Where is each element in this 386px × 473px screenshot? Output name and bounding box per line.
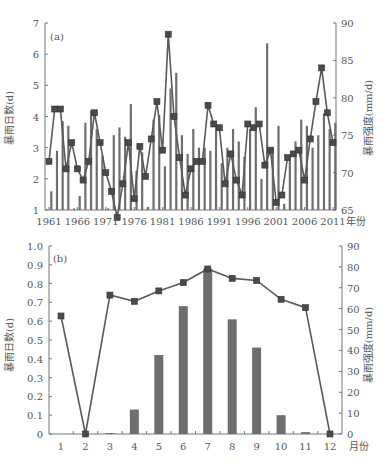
- bar: [238, 141, 240, 210]
- chart-panel-b: 00.10.20.30.40.50.60.70.80.91.0010203040…: [3, 241, 374, 452]
- line-marker: [131, 298, 137, 304]
- y-tick-label-right: 10: [347, 408, 360, 419]
- y-tick-label-left: 0.9: [27, 260, 43, 271]
- y-tick-label-right: 80: [341, 93, 354, 104]
- x-tick-label: 1: [58, 441, 64, 452]
- bar: [203, 269, 212, 434]
- bar: [84, 123, 86, 210]
- x-tick-label: 1966: [65, 216, 90, 227]
- bar: [198, 148, 200, 210]
- line-marker: [296, 147, 302, 153]
- bar: [252, 348, 261, 434]
- bar: [79, 196, 81, 210]
- x-tick-label: 1986: [178, 216, 203, 227]
- y-tick-label-right: 90: [347, 241, 360, 252]
- line-marker: [205, 102, 211, 108]
- line-marker: [108, 188, 114, 194]
- line-marker: [229, 275, 235, 281]
- y-tick-label-right: 80: [347, 262, 360, 273]
- line-marker: [57, 106, 63, 112]
- line-marker: [131, 196, 137, 202]
- line-marker: [194, 158, 200, 164]
- bar: [323, 113, 325, 210]
- x-tick-label: 1981: [150, 216, 175, 227]
- line-marker: [80, 177, 86, 183]
- y-tick-label-left: 0.2: [27, 391, 43, 402]
- line-marker: [188, 166, 194, 172]
- x-tick-label: 11: [299, 441, 312, 452]
- line-marker: [69, 140, 75, 146]
- bar: [260, 179, 262, 210]
- bar: [179, 306, 188, 434]
- line-marker: [58, 313, 64, 319]
- bar: [266, 43, 268, 210]
- bar: [228, 319, 237, 434]
- line-marker: [319, 65, 325, 71]
- line-marker: [290, 151, 296, 157]
- chart-figure: 1234567657075808590196119661971197619811…: [0, 0, 386, 473]
- y-tick-label-right: 70: [341, 168, 354, 179]
- line-marker: [256, 121, 262, 127]
- line-marker: [302, 177, 308, 183]
- y-tick-label-left: 0.3: [27, 373, 43, 384]
- bar: [204, 148, 206, 210]
- line-marker: [327, 431, 333, 437]
- line-marker: [233, 177, 239, 183]
- line-marker: [91, 110, 97, 116]
- y-tick-label-left: 1: [33, 205, 39, 216]
- line-marker: [245, 121, 251, 127]
- line-marker: [254, 277, 260, 283]
- y-tick-label-left: 4: [33, 112, 39, 123]
- line-marker: [205, 266, 211, 272]
- intensity-line: [61, 269, 330, 434]
- line-marker: [180, 280, 186, 286]
- x-tick-label: 2001: [263, 216, 288, 227]
- bar: [147, 207, 149, 210]
- line-marker: [86, 158, 92, 164]
- y-tick-label-right: 20: [347, 387, 360, 398]
- x-tick-label: 2011: [320, 216, 345, 227]
- line-marker: [211, 121, 217, 127]
- x-tick-label: 12: [324, 441, 337, 452]
- line-marker: [307, 136, 313, 142]
- line-marker: [279, 192, 285, 198]
- x-tick-label: 1971: [93, 216, 118, 227]
- line-marker: [216, 125, 222, 131]
- line-marker: [182, 192, 188, 198]
- line-marker: [63, 166, 69, 172]
- y-tick-label-left: 0.4: [27, 354, 43, 365]
- y-tick-label-left: 6: [33, 49, 39, 60]
- line-marker: [239, 192, 245, 198]
- x-tick-label: 6: [180, 441, 186, 452]
- line-marker: [74, 166, 80, 172]
- y-axis-title-right: 暴雨强度(mm/d): [362, 80, 374, 157]
- line-marker: [278, 296, 284, 302]
- y-tick-label-left: 2: [33, 174, 39, 185]
- bar: [169, 88, 171, 210]
- bar: [283, 204, 285, 210]
- y-tick-label-right: 30: [347, 366, 360, 377]
- bar: [107, 208, 109, 210]
- y-tick-label-left: 5: [33, 80, 39, 91]
- bar: [164, 166, 166, 210]
- y-tick-label-right: 90: [341, 18, 354, 29]
- line-marker: [148, 136, 154, 142]
- bar: [105, 433, 114, 434]
- y-tick-label-right: 65: [341, 205, 354, 216]
- line-marker: [120, 181, 126, 187]
- y-tick-label-left: 7: [33, 18, 39, 29]
- line-marker: [228, 151, 234, 157]
- bar: [215, 126, 217, 210]
- y-tick-label-left: 1.0: [27, 241, 43, 252]
- bar: [209, 151, 211, 210]
- x-tick-label: 2006: [292, 216, 317, 227]
- line-marker: [52, 106, 58, 112]
- line-marker: [273, 200, 279, 206]
- x-tick-label: 7: [205, 441, 211, 452]
- line-marker: [154, 99, 160, 105]
- line-marker: [199, 158, 205, 164]
- line-marker: [222, 181, 228, 187]
- bar: [334, 123, 336, 210]
- x-tick-label: 1976: [121, 216, 146, 227]
- y-tick-label-right: 70: [347, 283, 360, 294]
